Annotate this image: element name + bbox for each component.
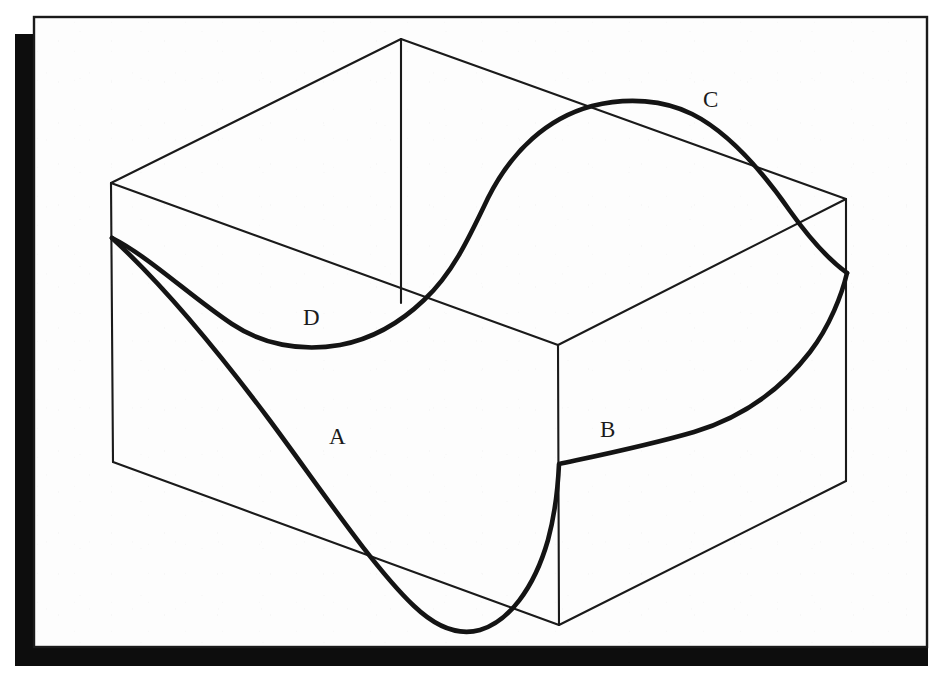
paper-sheet bbox=[33, 16, 928, 648]
curve-label-b: B bbox=[600, 418, 615, 441]
figure-canvas bbox=[0, 0, 943, 682]
curve-label-c: C bbox=[703, 88, 718, 111]
figure-page: A B C D bbox=[0, 0, 943, 682]
curve-label-d: D bbox=[303, 306, 320, 329]
curve-label-a: A bbox=[329, 425, 346, 448]
